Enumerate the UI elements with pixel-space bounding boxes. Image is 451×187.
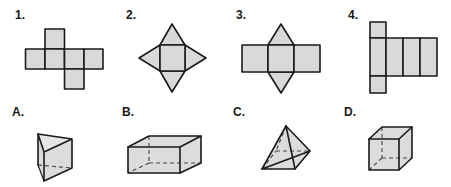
diagram-canvas bbox=[0, 0, 451, 187]
net-1-cube-net bbox=[26, 29, 104, 89]
net-3-prism-net bbox=[242, 24, 320, 93]
net-4-box-net bbox=[370, 22, 437, 93]
net-2-pyramid-net bbox=[139, 24, 206, 92]
solid-d-cube bbox=[369, 127, 412, 170]
solid-c-square-pyramid bbox=[262, 126, 310, 169]
solid-b-rectangular-prism bbox=[128, 136, 201, 173]
solid-a-triangular-prism bbox=[38, 134, 72, 181]
